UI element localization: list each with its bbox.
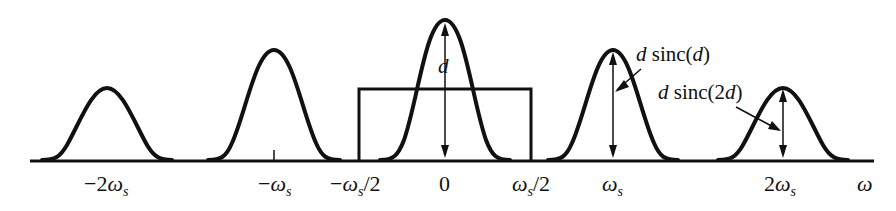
tick-label-2ws: 2ωs — [764, 171, 797, 199]
label-d-sinc-2d: d sinc(2d) — [658, 80, 743, 104]
tick-label-minus-ws: −ωs — [258, 171, 292, 199]
lobe-minus-ws — [208, 50, 340, 160]
axis-label-omega: ω — [857, 171, 873, 196]
tick-label-ws: ωs — [602, 171, 624, 199]
tick-label-minus-ws-half: −ωs/2 — [330, 171, 381, 199]
label-d: d — [438, 54, 449, 78]
lobe-minus-2ws — [42, 88, 172, 160]
tick-label-ws-half: ωs/2 — [512, 171, 550, 199]
label-d-sinc-d: d sinc(d) — [636, 42, 710, 66]
spectrum-diagram: d d sinc(d) d sinc(2d) −2ωs −ωs −ωs/2 0 … — [0, 0, 896, 211]
tick-label-minus-2ws: −2ωs — [84, 171, 129, 199]
tick-label-zero: 0 — [439, 171, 450, 196]
